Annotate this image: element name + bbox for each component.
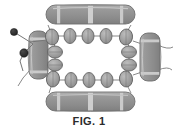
bottom-bar-band-2 xyxy=(88,93,93,111)
right-bar-member[interactable] xyxy=(140,33,160,81)
right-bar-band-2 xyxy=(141,72,159,75)
upper-anchor-node[interactable] xyxy=(10,28,17,35)
thread-left-outer xyxy=(18,70,30,86)
lower-anchor-node[interactable] xyxy=(20,49,28,57)
anchor-nodes-group xyxy=(10,28,28,57)
top-bar-member[interactable] xyxy=(46,5,135,24)
figure-container: FIG. 1 xyxy=(0,0,178,139)
figure-caption: FIG. 1 xyxy=(0,114,178,128)
link-elements-group xyxy=(44,28,136,88)
top-bar-band-2 xyxy=(88,6,93,24)
bar-members-group xyxy=(29,5,160,111)
left-bar-member[interactable] xyxy=(29,31,48,79)
thread-corner-bl xyxy=(49,87,51,93)
bottom-bar-member[interactable] xyxy=(46,92,135,111)
